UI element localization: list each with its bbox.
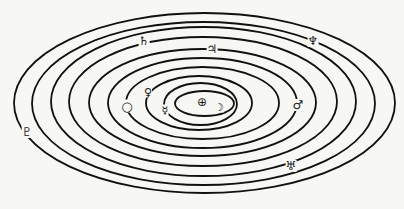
jupiter-icon: ♃ [207,43,218,55]
moon-icon: ☽ [214,102,224,113]
sun-icon: ⊕ [197,96,207,108]
pluto-icon: ♇ [22,126,33,138]
earth-icon: ○ [121,100,132,113]
uranus-icon: ♅ [286,160,297,172]
neptune-icon: ♆ [308,35,319,47]
mercury-icon: ☿ [162,105,169,116]
mars-icon: ♂ [293,99,304,111]
saturn-icon: ♄ [139,35,150,47]
venus-icon: ♀ [144,87,152,98]
orbit-diagram: ⊕ ☽☿♀○♂♃♄♅♆♇ [0,0,404,209]
